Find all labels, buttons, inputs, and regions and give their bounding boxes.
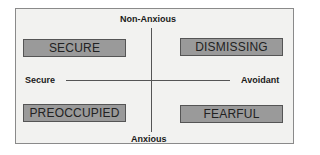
- quadrant-dismissing: DISMISSING: [180, 38, 283, 56]
- axis-label-top: Non-Anxious: [120, 14, 176, 24]
- quadrant-secure: SECURE: [23, 39, 126, 57]
- axis-label-bottom: Anxious: [131, 134, 167, 144]
- axis-label-right: Avoidant: [241, 75, 279, 85]
- axis-label-left: Secure: [25, 75, 55, 85]
- quadrant-fearful: FEARFUL: [180, 105, 283, 123]
- quadrant-preoccupied: PREOCCUPIED: [23, 104, 126, 122]
- horizontal-axis-line: [66, 80, 230, 81]
